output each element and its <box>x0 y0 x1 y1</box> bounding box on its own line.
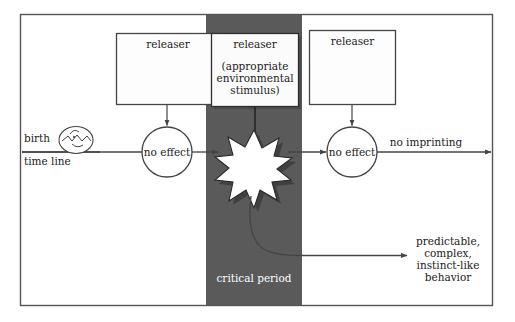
no-effect-label-left: no effect <box>142 146 192 159</box>
outcome-line-2: complex, <box>408 247 488 260</box>
no-effect-label-right: no effect <box>327 146 377 159</box>
releaser-label-left: releaser <box>116 38 220 51</box>
birth-label: birth <box>24 132 50 145</box>
releaser-sub-line-3: stimulus) <box>211 84 299 97</box>
outcome-line-4: behavior <box>408 271 488 284</box>
no-imprinting-label: no imprinting <box>386 136 466 149</box>
outcome-line-1: predictable, <box>408 235 488 248</box>
outcome-line-3: instinct-like <box>408 259 488 272</box>
releaser-label-right: releaser <box>309 35 396 48</box>
releaser-label-center: releaser <box>211 38 299 51</box>
diagram-canvas: birth time line releaser releaser (appro… <box>0 0 515 322</box>
releaser-sub-line-2: environmental <box>211 72 299 85</box>
critical-period-label: critical period <box>206 272 302 285</box>
releaser-sub-line-1: (appropriate <box>211 60 299 73</box>
hatching-chick-icon <box>59 127 93 154</box>
time-line-label: time line <box>24 155 71 168</box>
